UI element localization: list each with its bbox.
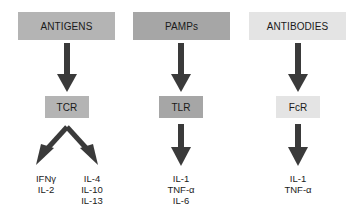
arrow-antigens-to-tcr xyxy=(57,43,77,92)
cytokine-label: IL-2 xyxy=(28,184,64,195)
tlr-box: TLR xyxy=(159,96,203,118)
fcr-box: FcR xyxy=(276,96,320,118)
tlr-cytokines: IL-1 TNF-α IL-6 xyxy=(161,173,201,206)
arrow-tcr-split xyxy=(47,127,87,149)
antigens-box: ANTIGENS xyxy=(18,12,115,40)
tcr-th2-cytokines: IL-4 IL-10 IL-13 xyxy=(74,173,110,206)
cytokine-label: IL-13 xyxy=(74,195,110,206)
cytokine-label: TNF-α xyxy=(278,184,318,195)
arrow-fcr-to-cytokines xyxy=(288,124,308,166)
arrow-pamps-to-tlr xyxy=(171,43,191,92)
arrow-tlr-to-cytokines xyxy=(171,124,191,166)
fcr-cytokines: IL-1 TNF-α xyxy=(278,173,318,195)
cytokine-label: IL-10 xyxy=(74,184,110,195)
tcr-th1-cytokines: IFNγ IL-2 xyxy=(28,173,64,195)
cytokine-label: IL-1 xyxy=(278,173,318,184)
cytokine-label: IL-1 xyxy=(161,173,201,184)
pamps-box: PAMPs xyxy=(133,12,230,40)
antibodies-box: ANTIBODIES xyxy=(249,12,346,40)
cytokine-label: TNF-α xyxy=(161,184,201,195)
arrow-antibodies-to-fcr xyxy=(288,43,308,92)
cytokine-label: IL-6 xyxy=(161,195,201,206)
cytokine-label: IFNγ xyxy=(28,173,64,184)
cytokine-label: IL-4 xyxy=(74,173,110,184)
tcr-box: TCR xyxy=(45,96,89,118)
